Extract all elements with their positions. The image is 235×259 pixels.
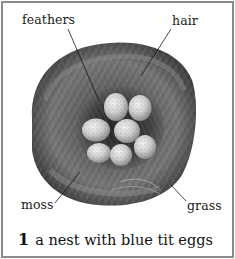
figure-number: 1 — [18, 230, 29, 249]
label-moss: moss — [21, 199, 54, 212]
label-feathers: feathers — [22, 14, 75, 27]
label-grass: grass — [187, 200, 222, 213]
leader-line-grass — [171, 185, 186, 201]
egg — [110, 144, 132, 166]
egg — [134, 135, 156, 159]
label-hair: hair — [172, 15, 198, 28]
nest — [32, 43, 196, 206]
caption-text: a nest with blue tit eggs — [35, 232, 213, 248]
egg — [129, 95, 152, 121]
nest-illustration — [0, 0, 235, 259]
egg — [114, 119, 140, 143]
figure-caption: 1a nest with blue tit eggs — [18, 232, 213, 248]
egg — [82, 119, 110, 142]
egg — [87, 143, 111, 163]
egg — [104, 93, 128, 121]
